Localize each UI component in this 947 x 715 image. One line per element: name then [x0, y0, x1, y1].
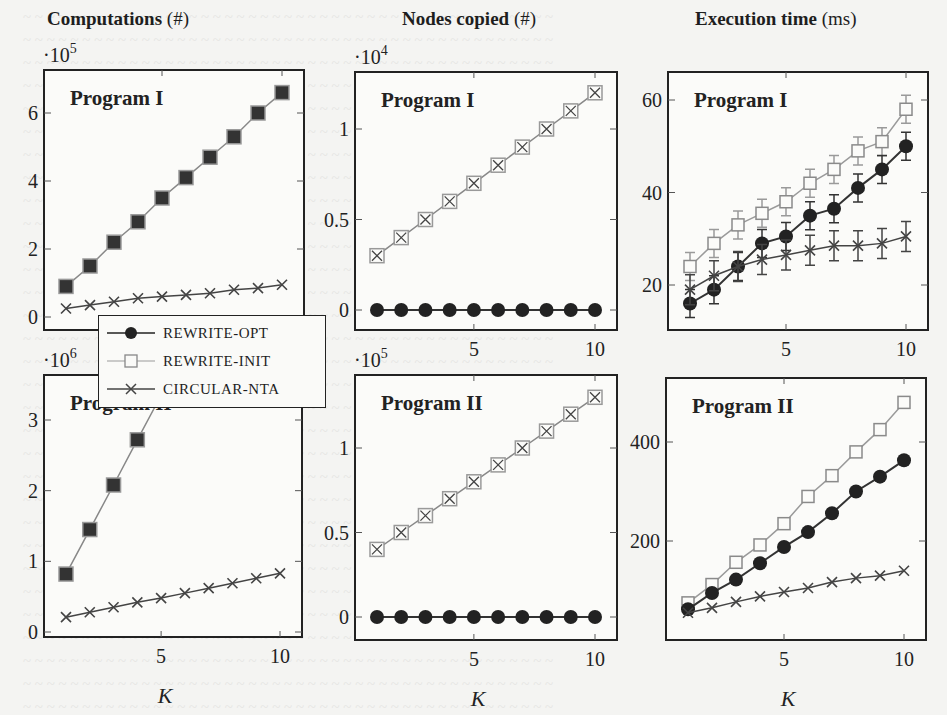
x-tick-label: 10	[585, 338, 605, 360]
program-label: Program I	[381, 88, 475, 112]
data-point	[803, 209, 817, 223]
data-point	[730, 556, 742, 568]
x-tick-label: 5	[156, 645, 166, 667]
data-point	[540, 610, 554, 624]
chart-panel-execution-time-program-2: 200400510KProgram II	[630, 378, 926, 711]
y-tick-label: 60	[642, 89, 662, 111]
data-point	[515, 610, 529, 624]
legend-label: REWRITE-OPT	[163, 325, 268, 342]
data-point	[370, 610, 384, 624]
data-point	[828, 163, 840, 175]
data-point	[825, 506, 839, 520]
data-point	[515, 303, 529, 317]
y-tick-label: 2	[28, 238, 38, 260]
data-point	[370, 303, 384, 317]
data-point	[131, 215, 145, 229]
data-point	[59, 567, 73, 581]
data-point	[251, 106, 265, 120]
data-point	[467, 303, 481, 317]
y-tick-label: 0	[28, 306, 38, 328]
legend-label: REWRITE-INIT	[163, 353, 271, 370]
data-point	[491, 610, 505, 624]
x-axis-label: K	[157, 683, 174, 708]
data-point	[83, 259, 97, 273]
data-point	[897, 453, 911, 467]
x-tick-label: 5	[469, 648, 479, 670]
data-point	[564, 303, 578, 317]
open-square-marker-icon	[107, 353, 155, 369]
program-label: Program II	[692, 394, 794, 418]
x-axis-label: K	[780, 686, 797, 711]
x-tick-label: 5	[469, 338, 479, 360]
program-label: Program I	[70, 86, 164, 110]
y-tick-label: 3	[28, 409, 38, 431]
data-point	[83, 523, 97, 537]
x-tick-label: 10	[270, 645, 290, 667]
legend: REWRITE-OPT REWRITE-INIT CIRCULAR-NTA	[98, 315, 326, 408]
data-point	[564, 610, 578, 624]
x-tick-label: 5	[779, 648, 789, 670]
data-point	[875, 162, 889, 176]
data-point	[418, 610, 432, 624]
y-multiplier-label: ·105	[354, 346, 388, 371]
program-label: Program II	[381, 391, 483, 415]
x-cross-marker-icon	[107, 381, 155, 397]
data-point	[588, 610, 602, 624]
data-point	[852, 145, 864, 157]
data-point	[708, 237, 720, 249]
y-tick-label: 0.5	[324, 209, 349, 231]
data-point	[827, 202, 841, 216]
legend-item-rewrite-init: REWRITE-INIT	[99, 348, 325, 374]
data-point	[107, 235, 121, 249]
data-point	[729, 573, 743, 587]
data-point	[777, 540, 791, 554]
legend-item-rewrite-opt: REWRITE-OPT	[99, 320, 325, 346]
data-point	[753, 556, 767, 570]
y-tick-label: 0	[339, 299, 349, 321]
data-point	[275, 86, 289, 100]
data-point	[107, 478, 121, 492]
filled-circle-marker-icon	[107, 325, 155, 341]
data-point	[849, 485, 863, 499]
data-point	[754, 539, 766, 551]
data-point	[130, 433, 144, 447]
data-point	[899, 139, 913, 153]
data-point	[227, 130, 241, 144]
data-point	[705, 586, 719, 600]
data-point	[802, 490, 814, 502]
y-tick-label: 40	[642, 182, 662, 204]
y-tick-label: 200	[630, 530, 660, 552]
data-point	[394, 610, 408, 624]
y-tick-label: 6	[28, 102, 38, 124]
data-point	[898, 396, 910, 408]
chart-panel-execution-time-program-1: 204060510Program I	[642, 72, 928, 360]
chart-panel-computations-program-1: 0246510·105Program I	[28, 41, 304, 360]
x-tick-label: 5	[781, 338, 791, 360]
data-point	[684, 261, 696, 273]
y-multiplier-label: ·104	[354, 43, 388, 68]
x-axis-label: K	[470, 686, 487, 711]
x-tick-label: 10	[585, 648, 605, 670]
data-point	[801, 525, 815, 539]
data-point	[900, 103, 912, 115]
y-tick-label: 400	[630, 431, 660, 453]
data-point	[778, 518, 790, 530]
data-point	[203, 150, 217, 164]
data-point	[443, 610, 457, 624]
chart-panel-nodes-copied-program-1: 00.51510·104Program I	[324, 43, 617, 360]
data-point	[179, 171, 193, 185]
data-point	[467, 610, 481, 624]
data-point	[588, 303, 602, 317]
data-point	[540, 303, 554, 317]
data-point	[826, 470, 838, 482]
y-tick-label: 1	[28, 550, 38, 572]
program-label: Program I	[694, 88, 788, 112]
y-tick-label: 4	[28, 170, 38, 192]
legend-item-circular-nta: CIRCULAR-NTA	[99, 376, 325, 402]
data-point	[873, 470, 887, 484]
data-point	[874, 424, 886, 436]
y-multiplier-label: ·105	[43, 41, 77, 66]
data-point	[443, 303, 457, 317]
data-point	[394, 303, 408, 317]
legend-label: CIRCULAR-NTA	[163, 381, 279, 398]
